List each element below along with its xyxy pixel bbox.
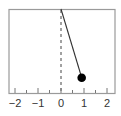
x-axis-ticks	[15, 88, 107, 93]
plot-frame	[9, 10, 115, 94]
x-tick-label: −2	[9, 97, 22, 109]
x-tick-label: 2	[104, 97, 110, 109]
x-tick-label: −1	[32, 97, 45, 109]
pendulum-bob	[77, 73, 86, 82]
pendulum-rod	[61, 9, 82, 77]
x-tick-label: 0	[58, 97, 64, 109]
pendulum-chart: −2 −1 0 1 2	[0, 0, 121, 116]
x-tick-label: 1	[81, 97, 87, 109]
